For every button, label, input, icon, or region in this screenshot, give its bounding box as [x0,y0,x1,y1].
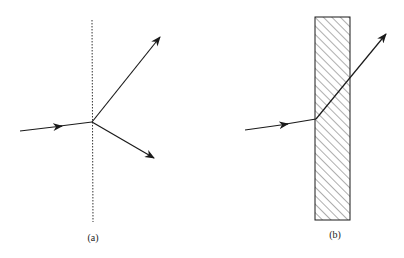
hatched-slab [315,17,350,220]
incident-ray-tail [60,122,92,126]
incident-ray [20,126,62,131]
diagram-canvas [0,0,404,258]
panel-b [245,17,386,220]
panel-a [20,20,160,222]
reflected-ray-down [92,122,154,158]
incident-ray [245,124,288,130]
refracted-ray-up [92,37,160,122]
incident-ray-tail [286,119,316,124]
panel-a-label: (a) [87,232,98,243]
panel-b-label: (b) [329,229,341,240]
